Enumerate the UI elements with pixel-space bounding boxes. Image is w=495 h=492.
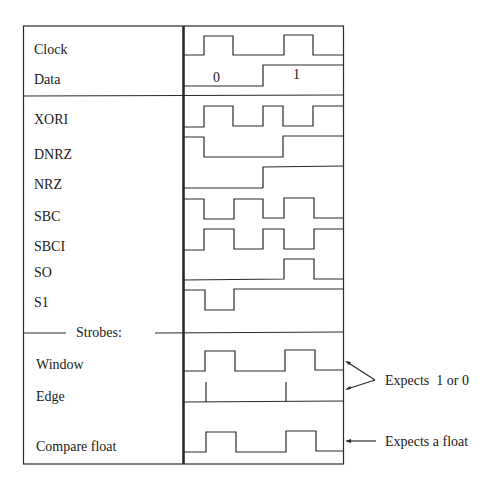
signal-label-nrz: NRZ bbox=[34, 177, 62, 193]
arrowhead-edge-icon bbox=[345, 386, 351, 390]
separator-inputs bbox=[24, 95, 344, 96]
waveform-xori bbox=[183, 106, 343, 127]
signal-label-clock: Clock bbox=[34, 42, 67, 58]
arrowhead-float-icon bbox=[345, 439, 351, 443]
waveform-data bbox=[183, 65, 343, 86]
strobes-section-header: Strobes: bbox=[76, 325, 122, 341]
signal-label-dnrz: DNRZ bbox=[34, 147, 72, 163]
signal-label-s1: S1 bbox=[34, 295, 49, 311]
data-value-0: 0 bbox=[213, 70, 220, 86]
signal-label-edge: Edge bbox=[36, 389, 65, 405]
annotation-expects-binary: Expects 1 or 0 bbox=[385, 373, 469, 389]
waveform-so bbox=[183, 259, 343, 280]
waveform-s1 bbox=[183, 289, 343, 310]
waveform-clock bbox=[183, 35, 343, 55]
signal-label-so: SO bbox=[34, 265, 52, 281]
waveform-dnrz bbox=[183, 136, 343, 157]
waveform-compare-float bbox=[183, 431, 343, 452]
separator-edge bbox=[184, 401, 344, 402]
signal-label-compare-float: Compare float bbox=[36, 439, 116, 455]
signal-label-window: Window bbox=[36, 357, 84, 373]
timing-diagram bbox=[0, 0, 495, 492]
waveform-window bbox=[183, 350, 343, 371]
arrow-to-window bbox=[347, 362, 375, 380]
data-value-1: 1 bbox=[293, 67, 300, 83]
waveform-sbci bbox=[183, 229, 343, 250]
arrow-to-edge bbox=[347, 380, 375, 389]
waveform-sbc bbox=[183, 198, 343, 219]
signal-label-data: Data bbox=[34, 72, 60, 88]
signal-label-xori: XORI bbox=[34, 112, 68, 128]
signal-label-sbc: SBC bbox=[34, 209, 60, 225]
annotation-expects-float: Expects a float bbox=[385, 434, 468, 450]
signal-label-sbci: SBCI bbox=[34, 239, 65, 255]
waveform-nrz bbox=[263, 166, 343, 188]
